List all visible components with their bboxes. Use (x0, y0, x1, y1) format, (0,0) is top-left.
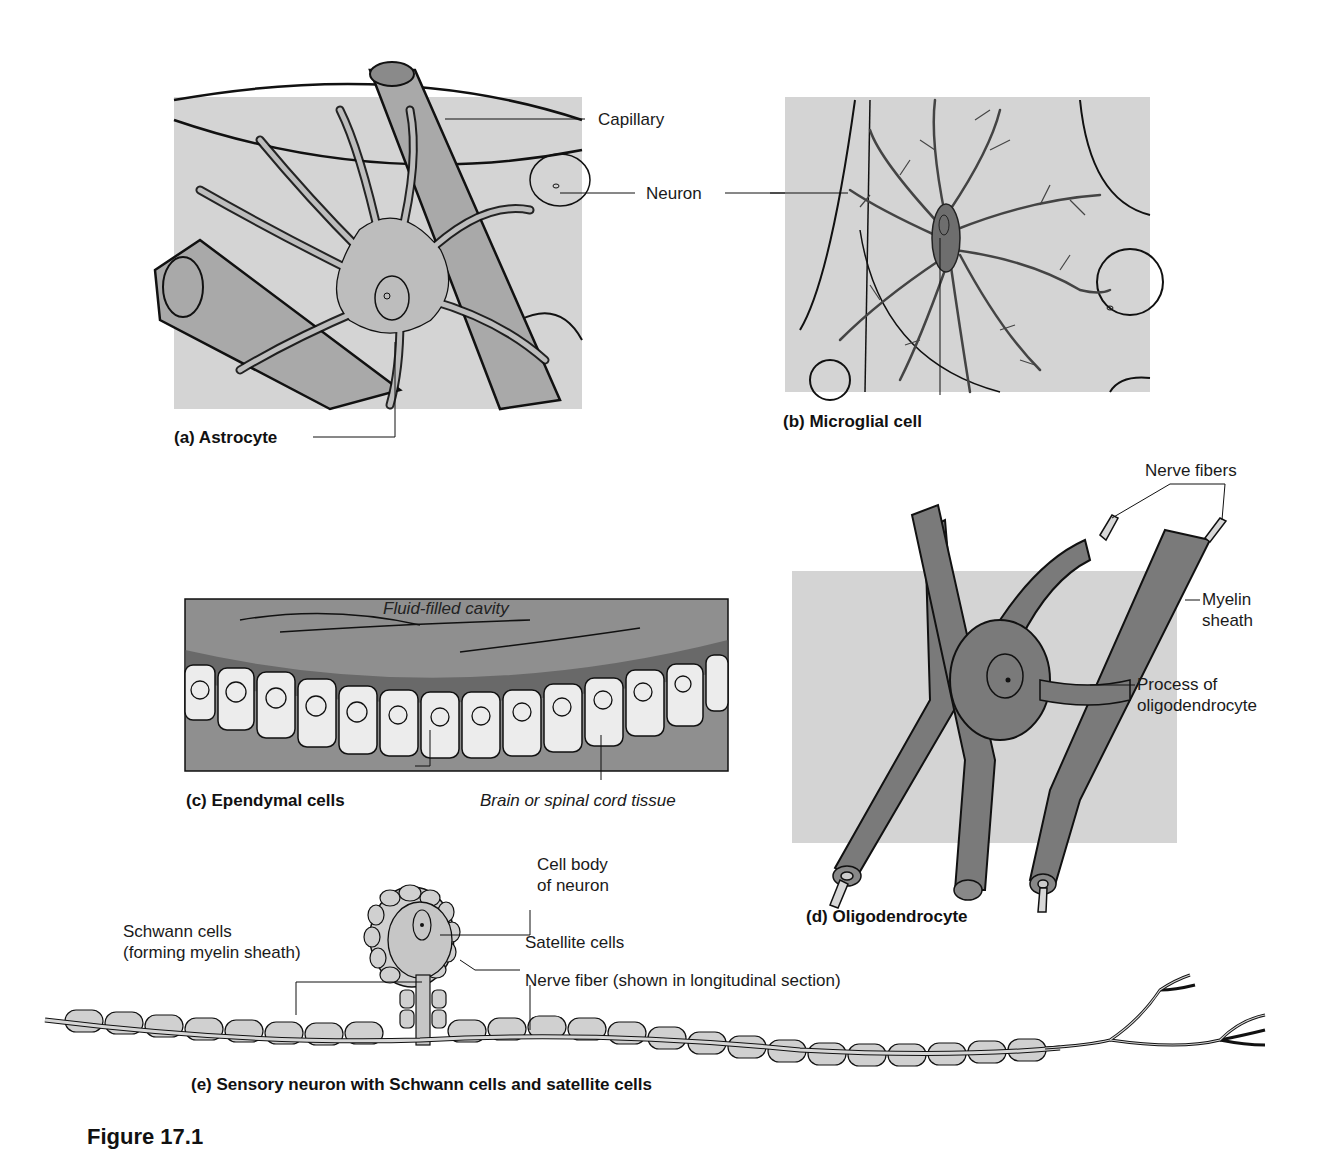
label-cell-body-line1: Cell body (537, 855, 608, 875)
label-nerve-fiber: Nerve fiber (shown in longitudinal secti… (525, 971, 841, 991)
caption-sensory-neuron: (e) Sensory neuron with Schwann cells an… (191, 1075, 652, 1095)
figure-number: Figure 17.1 (87, 1124, 203, 1150)
label-satellite-cells: Satellite cells (525, 933, 624, 953)
label-schwann-line1: Schwann cells (123, 922, 232, 942)
label-cell-body-line2: of neuron (537, 876, 609, 896)
label-schwann-line2: (forming myelin sheath) (123, 943, 301, 963)
